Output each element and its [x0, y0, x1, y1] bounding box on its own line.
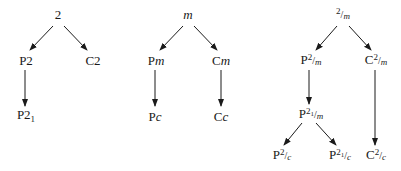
- node-C2: C2: [85, 54, 100, 67]
- node-P21: P21: [17, 108, 35, 124]
- node-Pc: Pc: [148, 110, 161, 123]
- edge-m-Cm: [194, 26, 217, 50]
- node-2-over-m: 2/m: [336, 7, 350, 21]
- edge-P21m-P21c: [316, 123, 336, 145]
- node-P21-over-m: P21/m: [299, 107, 324, 121]
- edge-2-P2: [30, 26, 53, 50]
- node-Pm: Pm: [148, 54, 165, 67]
- node-2: 2: [55, 8, 62, 21]
- edges-layer: [0, 0, 401, 171]
- node-P21-over-c: P21/c: [329, 148, 351, 162]
- node-C2-over-m: C2/m: [365, 53, 387, 67]
- node-P2-over-c: P2/c: [273, 148, 292, 162]
- node-Cc: Cc: [214, 110, 228, 123]
- node-Cm: Cm: [212, 54, 230, 67]
- edge-m-Pm: [160, 26, 183, 50]
- edge-P21m-P2c: [284, 123, 302, 145]
- node-C2-over-c: C2/c: [366, 148, 386, 162]
- node-P2-over-m: P2/m: [300, 53, 321, 67]
- node-P2: P2: [19, 54, 33, 67]
- node-m: m: [183, 8, 192, 21]
- edge-2m-C2m: [349, 26, 371, 50]
- edge-2m-P2m: [316, 26, 337, 50]
- edge-2-C2: [64, 26, 87, 50]
